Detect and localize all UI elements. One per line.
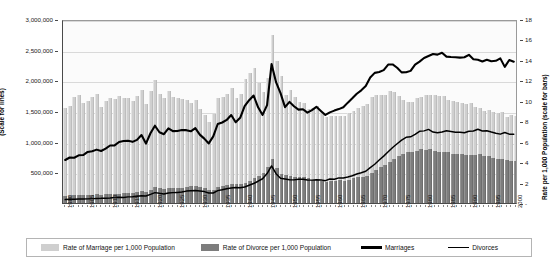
- legend-item[interactable]: Rate of Marriage per 1,000 Population: [41, 239, 175, 256]
- y-axis-left-tick-mark: [55, 20, 58, 21]
- x-axis-minor-tick-mark: [280, 205, 281, 207]
- x-axis-minor-tick-mark: [73, 205, 74, 207]
- x-axis-minor-tick-mark: [199, 205, 200, 207]
- x-axis-minor-tick-mark: [240, 205, 241, 207]
- x-axis-minor-tick-mark: [389, 205, 390, 207]
- x-axis-minor-tick-mark: [96, 205, 97, 207]
- x-axis-minor-tick-mark: [393, 205, 394, 207]
- x-axis-minor-tick-mark: [181, 205, 182, 207]
- x-axis-minor-tick-mark: [145, 205, 146, 207]
- y-axis-left-tick-mark: [55, 143, 58, 144]
- x-axis-minor-tick-mark: [308, 205, 309, 207]
- x-axis-minor-tick-mark: [362, 205, 363, 207]
- x-axis-minor-tick-mark: [317, 205, 318, 207]
- y-axis-right-tick-mark: [520, 20, 523, 21]
- x-axis-minor-tick-mark: [222, 205, 223, 207]
- legend-item[interactable]: Marriages: [361, 239, 414, 256]
- x-axis-minor-tick-mark: [204, 205, 205, 207]
- x-axis-minor-tick-mark: [217, 205, 218, 207]
- x-axis-tick-label: 1925: [179, 195, 185, 208]
- x-axis-minor-tick-mark: [420, 205, 421, 207]
- y-axis-right-ticks: -24681012141618: [520, 20, 538, 204]
- x-axis-tick-label: 1985: [450, 195, 456, 208]
- x-axis-minor-tick-mark: [168, 205, 169, 207]
- y-axis-left-tick-mark: [55, 81, 58, 82]
- legend-swatch-icon: [41, 244, 59, 251]
- x-axis-minor-tick-mark: [276, 205, 277, 207]
- x-axis-minor-tick-mark: [434, 205, 435, 207]
- x-axis-minor-tick-mark: [114, 205, 115, 207]
- plot-area: [62, 20, 517, 204]
- x-axis-minor-tick-mark: [402, 205, 403, 207]
- x-axis-minor-tick-mark: [515, 205, 516, 207]
- x-axis-minor-tick-mark: [479, 205, 480, 207]
- x-axis-tick-label: 1930: [202, 195, 208, 208]
- x-axis-minor-tick-mark: [380, 205, 381, 207]
- x-axis-tick-label: 2000: [517, 195, 523, 208]
- x-axis-minor-tick-mark: [299, 205, 300, 207]
- x-axis-minor-tick-mark: [100, 205, 101, 207]
- x-axis-tick-label: 1945: [270, 195, 276, 208]
- x-axis-tick-label: 1950: [292, 195, 298, 208]
- x-axis-tick-label: 1935: [225, 195, 231, 208]
- legend-line-icon: [361, 246, 382, 249]
- x-axis-tick-label: 1990: [472, 195, 478, 208]
- x-axis-minor-tick-mark: [335, 205, 336, 207]
- x-axis-minor-tick-mark: [290, 205, 291, 207]
- x-axis-minor-tick-mark: [253, 205, 254, 207]
- x-axis-minor-tick-mark: [159, 205, 160, 207]
- legend-item[interactable]: Rate of Divorce per 1,000 Population: [201, 239, 331, 256]
- y-axis-left-tick-label: 3,000,000: [25, 17, 58, 23]
- x-axis-minor-tick-mark: [141, 205, 142, 207]
- y-axis-left-tick-mark: [55, 51, 58, 52]
- legend-item[interactable]: Divorces: [448, 239, 498, 256]
- legend-swatch-icon: [201, 244, 219, 251]
- divorces-line: [65, 129, 514, 199]
- x-axis-minor-tick-mark: [492, 205, 493, 207]
- x-axis-minor-tick-mark: [118, 205, 119, 207]
- line-series-group: [63, 21, 516, 203]
- x-axis-minor-tick-mark: [312, 205, 313, 207]
- x-axis-minor-tick-mark: [244, 205, 245, 207]
- x-axis-minor-tick-mark: [163, 205, 164, 207]
- x-axis-minor-tick-mark: [123, 205, 124, 207]
- x-axis-minor-tick-mark: [303, 205, 304, 207]
- x-axis-minor-tick-mark: [506, 205, 507, 207]
- x-axis-minor-tick-mark: [375, 205, 376, 207]
- x-axis-minor-tick-mark: [353, 205, 354, 207]
- x-axis-minor-tick-mark: [213, 205, 214, 207]
- x-axis-minor-tick-mark: [249, 205, 250, 207]
- x-axis-minor-tick-mark: [384, 205, 385, 207]
- y-axis-right-tick-mark: [520, 61, 523, 62]
- x-axis-minor-tick-mark: [82, 205, 83, 207]
- x-axis-tick-label: 1940: [247, 195, 253, 208]
- chart-root: (Scale for lines) Rate per 1,000 Populat…: [0, 0, 558, 265]
- x-axis-tick-label: 1910: [112, 195, 118, 208]
- y-axis-right-tick-mark: [520, 40, 523, 41]
- x-axis-tick-label: 1995: [495, 195, 501, 208]
- x-axis-tick-label: 1920: [157, 195, 163, 208]
- y-axis-left-tick-label: 2,000,000: [25, 78, 58, 84]
- x-axis-minor-tick-mark: [208, 205, 209, 207]
- x-axis-minor-tick-mark: [235, 205, 236, 207]
- x-axis-tick-label: 1975: [405, 195, 411, 208]
- x-axis-minor-tick-mark: [465, 205, 466, 207]
- x-axis-tick-label: 1970: [382, 195, 388, 208]
- legend-label: Marriages: [385, 244, 414, 251]
- x-axis-minor-tick-mark: [443, 205, 444, 207]
- x-axis-minor-tick-mark: [411, 205, 412, 207]
- y-axis-left-tick-label: 1,000,000: [25, 140, 58, 146]
- y-axis-right-tick-mark: [520, 184, 523, 185]
- x-axis-minor-tick-mark: [416, 205, 417, 207]
- x-axis-ticks: 1900190519101915192019251930193519401945…: [62, 205, 517, 235]
- x-axis-minor-tick-mark: [371, 205, 372, 207]
- x-axis-minor-tick-mark: [186, 205, 187, 207]
- x-axis-minor-tick-mark: [470, 205, 471, 207]
- x-axis-minor-tick-mark: [177, 205, 178, 207]
- x-axis-minor-tick-mark: [357, 205, 358, 207]
- x-axis-tick-label: 1980: [427, 195, 433, 208]
- x-axis-tick-label: 1955: [315, 195, 321, 208]
- y-axis-right-tick-mark: [520, 122, 523, 123]
- x-axis-minor-tick-mark: [195, 205, 196, 207]
- marriages-line: [65, 53, 514, 160]
